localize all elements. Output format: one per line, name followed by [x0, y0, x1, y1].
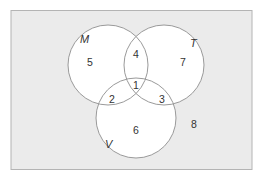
region-m-and-t: 4 — [133, 48, 139, 60]
venn-diagram: M T V 5 4 7 1 2 3 6 8 — [0, 0, 266, 180]
region-m-t-v: 1 — [133, 79, 139, 91]
region-v-only: 6 — [133, 124, 139, 136]
venn-diagram-canvas: M T V 5 4 7 1 2 3 6 8 — [0, 0, 266, 180]
region-m-only: 5 — [87, 56, 93, 68]
set-label-m: M — [80, 33, 90, 45]
region-m-and-v: 2 — [109, 93, 115, 105]
region-outside: 8 — [191, 118, 197, 130]
region-t-and-v: 3 — [159, 93, 165, 105]
region-t-only: 7 — [180, 56, 186, 68]
